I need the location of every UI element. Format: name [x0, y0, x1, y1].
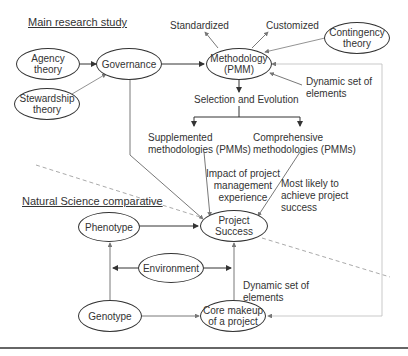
heading-main-research-study: Main research study	[28, 16, 127, 28]
label-selection-evolution: Selection and Evolution	[194, 94, 299, 106]
label-supplemented: Supplemented methodologies (PMMs)	[148, 132, 251, 156]
node-core-makeup: Core makeup of a project	[200, 300, 266, 332]
arrow-dynamic-methodology	[270, 73, 302, 85]
arrow-stewardship-governance	[72, 74, 106, 94]
label-standardized: Standardized	[170, 20, 229, 32]
node-stewardship-theory: Stewardship theory	[14, 88, 80, 120]
label-customized: Customized	[266, 20, 319, 32]
node-phenotype: Phenotype	[78, 212, 140, 242]
label-dynamic-set-top: Dynamic set of elements	[306, 76, 372, 100]
node-contingency-theory: Contingency theory	[324, 22, 390, 54]
node-methodology: Methodology (PMM)	[206, 48, 272, 80]
arrow-methodology-standardized	[205, 32, 218, 48]
heading-natural-science: Natural Science comparative	[22, 195, 163, 207]
node-genotype: Genotype	[78, 300, 142, 332]
arrow-methodology-customized	[252, 32, 268, 48]
node-governance: Governance	[96, 48, 162, 80]
dashed-divider-right	[262, 238, 390, 277]
arrow-contingency-methodology	[265, 38, 325, 52]
node-project-success: Project Success	[200, 210, 268, 242]
label-dynamic-set-bottom: Dynamic set of elements	[243, 280, 309, 304]
label-comprehensive: Comprehensive methodologies (PMMs)	[253, 132, 356, 156]
node-environment: Environment	[138, 253, 204, 283]
label-most-likely: Most likely to achieve project success	[281, 178, 348, 214]
node-agency-theory: Agency theory	[16, 48, 80, 80]
dashed-divider-left	[36, 165, 200, 217]
label-impact-experience: Impact of project management experience	[206, 168, 280, 204]
